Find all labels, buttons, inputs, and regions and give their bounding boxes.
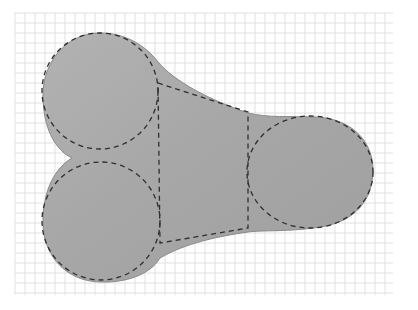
diagram-canvas (0, 0, 418, 310)
blob-shape (43, 33, 373, 282)
